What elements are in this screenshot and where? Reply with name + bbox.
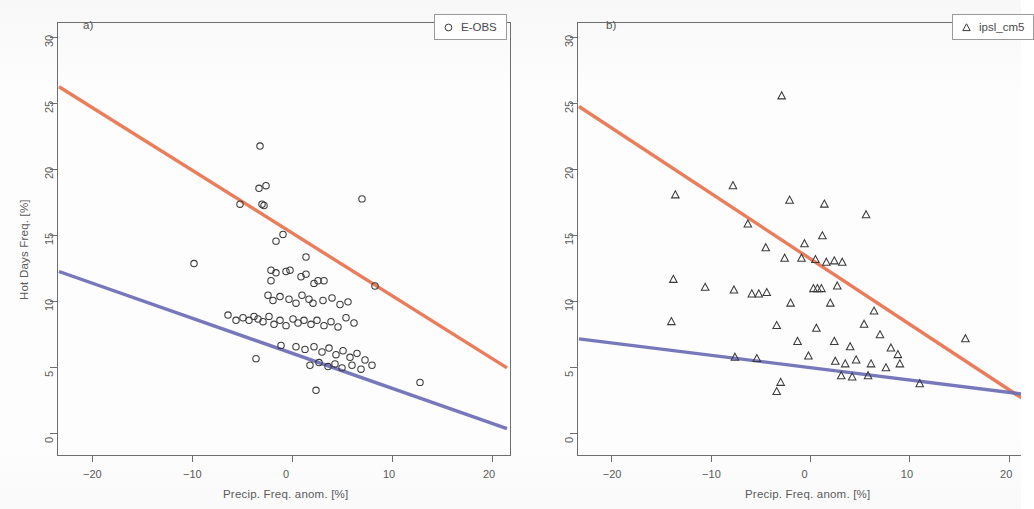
y-tick-label: 20: [563, 167, 575, 179]
panel-b-x-axis-title: Precip. Freq. anom. [%]: [745, 488, 870, 500]
panel-a-y-axis-title: Hot Days Freq. [%]: [18, 199, 30, 300]
x-tick-label: −20: [603, 468, 622, 480]
panel-b-tag: b): [606, 19, 616, 31]
y-tick-label: 0: [43, 437, 55, 443]
panel-a-plot: [0, 0, 520, 509]
x-tick-label: 10: [383, 468, 395, 480]
panel-a: a) E-OBS Hot Days Freq. [%] Precip. Freq…: [0, 0, 520, 509]
triangle-marker-icon: [961, 22, 972, 33]
x-tick-label: 20: [1000, 468, 1012, 480]
y-tick-label: 30: [563, 35, 575, 47]
panel-a-x-axis-title: Precip. Freq. anom. [%]: [223, 488, 348, 500]
panel-b-plot: [533, 0, 1021, 509]
panel-b-legend-label: ipsl_cm5: [979, 21, 1024, 33]
panel-a-legend-label: E-OBS: [461, 21, 497, 33]
circle-marker-icon: [443, 22, 454, 33]
y-tick-label: 15: [563, 233, 575, 245]
y-tick-label: 10: [43, 299, 55, 311]
y-tick-label: 25: [563, 101, 575, 113]
y-tick-label: 5: [563, 371, 575, 377]
x-tick-label: −10: [183, 468, 202, 480]
y-tick-label: 5: [43, 371, 55, 377]
panel-b-legend: ipsl_cm5: [952, 14, 1034, 40]
x-tick-label: 10: [901, 468, 913, 480]
panel-a-tag: a): [83, 19, 93, 31]
y-tick-label: 15: [43, 233, 55, 245]
y-tick-label: 0: [563, 437, 575, 443]
panel-a-legend: E-OBS: [434, 14, 507, 40]
panel-b: b) ipsl_cm5 Precip. Freq. anom. [%] 0510…: [533, 0, 1021, 509]
x-tick-label: −10: [702, 468, 721, 480]
y-tick-label: 25: [43, 101, 55, 113]
x-tick-label: −20: [83, 468, 102, 480]
x-tick-label: 20: [483, 468, 495, 480]
x-tick-label: 0: [283, 468, 289, 480]
x-tick-label: 0: [801, 468, 807, 480]
y-tick-label: 10: [563, 299, 575, 311]
y-tick-label: 30: [43, 35, 55, 47]
y-tick-label: 20: [43, 167, 55, 179]
